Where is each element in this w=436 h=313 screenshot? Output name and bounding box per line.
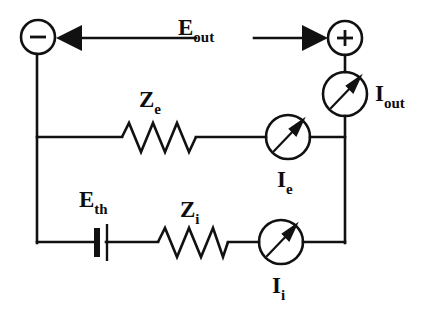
eout-arrowhead-left [56,25,82,51]
circuit-diagram-canvas: Eout Iout Ze Ie Eth Zi Ii [0,0,436,313]
label-z-i: Zi [180,198,200,224]
resistor-ze-zigzag [122,123,196,152]
label-i-e: Ie [277,168,293,194]
label-i-i: Ii [272,274,285,300]
eout-arrowhead-right [302,25,328,51]
label-i-out: Iout [375,82,405,108]
label-e-th: Eth [79,188,108,214]
label-z-e: Ze [139,88,161,114]
label-e-out: Eout [178,16,214,42]
resistor-zi-zigzag [158,228,228,257]
schematic-svg [0,0,436,313]
